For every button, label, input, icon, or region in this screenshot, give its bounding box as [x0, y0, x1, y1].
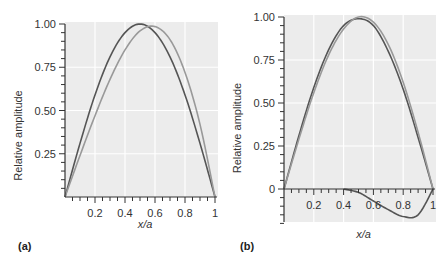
panel-label-a: (a)	[18, 240, 32, 252]
x-tick-label: 0.4	[336, 199, 351, 211]
panel-a: 0.250.500.751.000.20.40.60.81 Relative a…	[12, 18, 218, 252]
x-tick-label: 0.8	[396, 199, 411, 211]
y-tick-label: 0.50	[254, 97, 275, 109]
y-tick-label: 0.25	[254, 140, 275, 152]
y-tick-label: 0	[269, 183, 275, 195]
x-axis-title-b: x/a	[355, 228, 371, 240]
y-axis-title-b: Relative amplitude	[231, 83, 243, 174]
y-tick-label: 1.00	[35, 18, 56, 30]
x-tick-label: 0.2	[87, 207, 102, 219]
y-tick-label: 0.25	[35, 148, 56, 160]
plot-area-a	[65, 22, 218, 197]
y-tick-label: 1.00	[254, 11, 275, 23]
figure: 0.250.500.751.000.20.40.60.81 Relative a…	[0, 0, 448, 266]
panel-b: 00.250.500.751.000.20.40.60.81 Relative …	[231, 11, 436, 252]
x-tick-label: 1	[212, 207, 218, 219]
x-tick-label: 1	[430, 199, 436, 211]
y-tick-label: 0.75	[254, 54, 275, 66]
panel-label-b: (b)	[240, 240, 254, 252]
x-tick-label: 0.6	[366, 199, 381, 211]
y-axis-title-a: Relative amplitude	[12, 90, 24, 181]
x-tick-label: 0.2	[306, 199, 321, 211]
y-tick-label: 0.75	[35, 61, 56, 73]
x-tick-label: 0.8	[177, 207, 192, 219]
x-axis-title-a: x/a	[137, 218, 153, 230]
x-tick-label: 0.4	[117, 207, 132, 219]
y-tick-label: 0.50	[35, 105, 56, 117]
